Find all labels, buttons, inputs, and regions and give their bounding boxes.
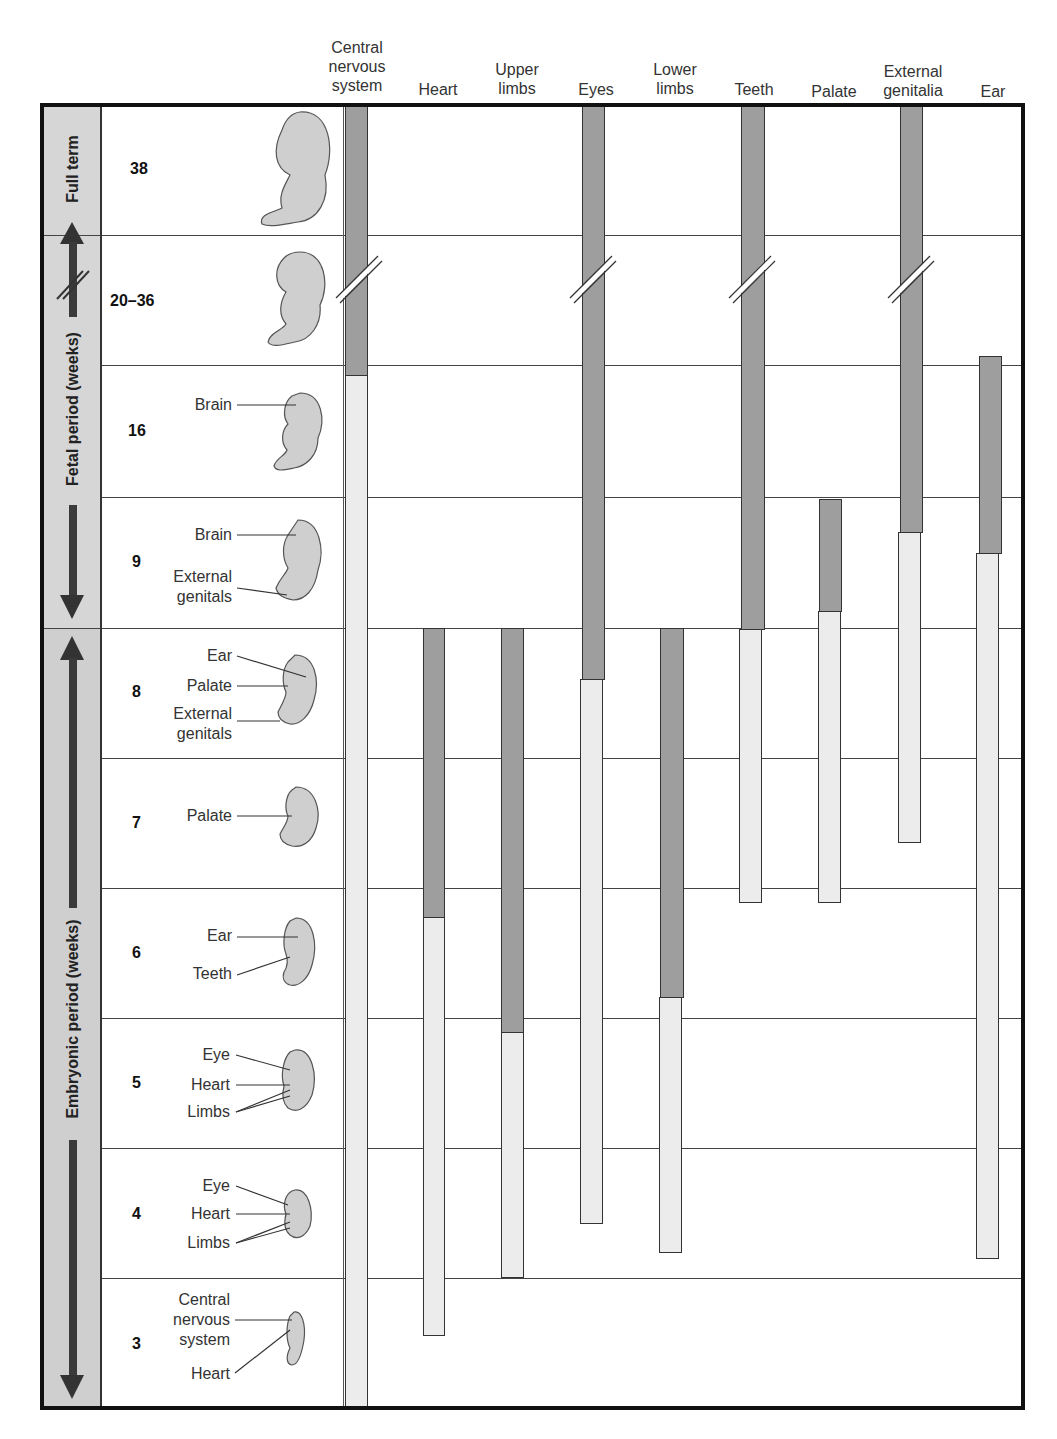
chart-frame — [40, 103, 1025, 1410]
